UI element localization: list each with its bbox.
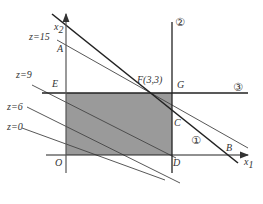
point-label-A: A	[56, 43, 64, 54]
feasible-region	[66, 93, 172, 155]
point-label-G: G	[177, 79, 184, 90]
point-label-C: C	[174, 117, 181, 128]
constraint-marker-3: ③	[233, 81, 243, 94]
lp-diagram: x2 x1 O A E F(3,3) G C D B ① ② ③ z=15 z=…	[0, 0, 263, 204]
constraint-marker-1: ①	[191, 134, 201, 147]
constraint-marker-2: ②	[175, 16, 185, 29]
point-label-E: E	[51, 78, 58, 89]
point-label-F: F(3,3)	[136, 74, 163, 86]
point-label-B: B	[226, 142, 232, 153]
objective-label-z15: z=15	[28, 31, 50, 42]
objective-label-z9: z=9	[15, 69, 32, 80]
objective-label-z0: z=0	[6, 121, 23, 132]
objective-label-z6: z=6	[6, 101, 23, 112]
x-axis-label: x1	[243, 156, 253, 170]
point-label-D: D	[172, 157, 181, 168]
origin-label: O	[55, 157, 62, 168]
y-axis-label: x2	[53, 21, 63, 35]
